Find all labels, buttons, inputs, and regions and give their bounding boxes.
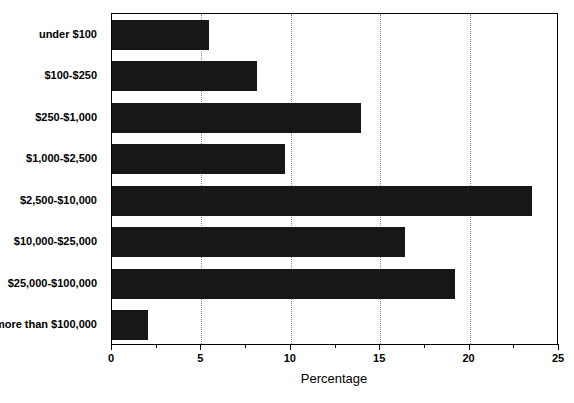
bar-row	[112, 186, 559, 216]
x-tick-major	[469, 344, 470, 350]
bar-row	[112, 227, 559, 257]
x-tick-label: 0	[108, 352, 114, 364]
x-tick-major	[379, 344, 380, 350]
bar-row	[112, 20, 559, 50]
x-tick-minor	[245, 344, 246, 348]
x-tick-major	[200, 344, 201, 350]
x-tick-minor	[424, 344, 425, 348]
bar	[112, 227, 405, 257]
bar	[112, 61, 257, 91]
bar-row	[112, 269, 559, 299]
bar	[112, 20, 209, 50]
x-tick-major	[290, 344, 291, 350]
x-tick-label: 20	[462, 352, 474, 364]
bar	[112, 186, 532, 216]
plot-area	[111, 13, 558, 345]
x-tick-label: 5	[197, 352, 203, 364]
category-label: $25,000-$100,000	[8, 277, 97, 289]
bar	[112, 269, 455, 299]
x-tick-label: 15	[373, 352, 385, 364]
x-tick-label: 25	[552, 352, 564, 364]
bar-row	[112, 103, 559, 133]
category-label: $250-$1,000	[35, 111, 97, 123]
bar	[112, 144, 285, 174]
x-tick-major	[558, 344, 559, 350]
x-axis-title: Percentage	[111, 371, 557, 386]
category-label: $100-$250	[44, 69, 97, 81]
bar-row	[112, 144, 559, 174]
category-label: $10,000-$25,000	[14, 235, 97, 247]
category-label: $2,500-$10,000	[20, 194, 97, 206]
bar	[112, 103, 361, 133]
bar-row	[112, 61, 559, 91]
category-label: more than $100,000	[0, 318, 97, 330]
category-label: $1,000-$2,500	[26, 152, 97, 164]
x-tick-major	[111, 344, 112, 350]
x-tick-label: 10	[284, 352, 296, 364]
category-label: under $100	[39, 28, 97, 40]
bar-row	[112, 310, 559, 340]
y-axis-category-labels: under $100$100-$250$250-$1,000$1,000-$2,…	[0, 0, 105, 403]
bar	[112, 310, 148, 340]
bar-chart: under $100$100-$250$250-$1,000$1,000-$2,…	[0, 0, 574, 403]
x-tick-minor	[156, 344, 157, 348]
x-tick-minor	[513, 344, 514, 348]
x-tick-minor	[335, 344, 336, 348]
